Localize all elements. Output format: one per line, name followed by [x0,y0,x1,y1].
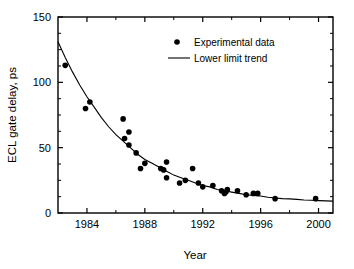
data-point [190,166,196,172]
x-tick-label: 1988 [133,218,157,230]
y-tick-label: 0 [45,207,51,219]
data-point [138,166,144,172]
data-point [272,196,278,202]
data-point [243,192,249,198]
y-axis-title: ECL gate delay, ps [6,67,18,163]
chart-legend: Experimental data Lower limit trend [168,37,275,64]
data-point [164,159,170,165]
data-point [235,188,241,194]
chart-svg: 19841988199219962000050100150 Year ECL g… [0,0,354,269]
data-point [133,150,139,156]
lower-limit-trend-line [58,42,333,201]
data-point [83,106,89,112]
data-point [177,180,183,186]
data-point [161,167,167,173]
x-tick-label: 1992 [190,218,214,230]
data-point [62,63,68,69]
x-tick-label: 2000 [306,218,330,230]
legend-label-lower-limit-trend: Lower limit trend [194,53,267,64]
y-tick-label: 150 [33,11,51,23]
chart-figure: 19841988199219962000050100150 Year ECL g… [0,0,354,269]
data-point [126,142,132,148]
y-tick-label: 50 [39,142,51,154]
data-point [142,161,148,167]
data-point [164,175,170,181]
data-point [225,187,231,193]
data-point [210,183,216,189]
data-point [196,180,202,186]
x-tick-label: 1984 [75,218,99,230]
data-point [87,99,93,105]
data-point [200,184,206,190]
data-point [313,196,319,202]
data-point [122,136,128,142]
legend-label-experimental-data: Experimental data [194,37,275,48]
data-point [120,116,126,122]
x-axis-title: Year [183,249,206,261]
data-point [126,129,132,135]
axis-tick-labels: 19841988199219962000050100150 [33,11,331,230]
data-point [183,178,189,184]
x-tick-label: 1996 [248,218,272,230]
data-point [255,191,261,197]
y-tick-label: 100 [33,76,51,88]
legend-marker-experimental-data [174,39,180,45]
